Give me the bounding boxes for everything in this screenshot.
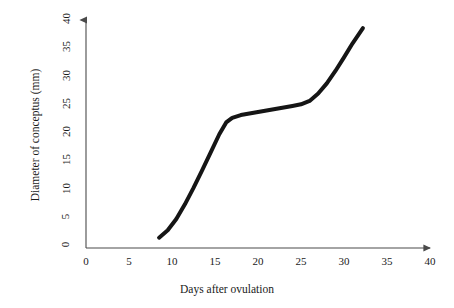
x-tick-label: 5 xyxy=(126,256,132,267)
y-axis-title-text: Diameter of conceptus (mm) xyxy=(29,69,41,202)
growth-curve xyxy=(159,28,363,238)
x-tick-label: 20 xyxy=(253,256,264,267)
y-tick-label: 5 xyxy=(58,211,74,222)
x-tick-label: 15 xyxy=(210,256,221,267)
x-tick-label: 10 xyxy=(167,256,178,267)
x-tick-label: 40 xyxy=(425,256,436,267)
y-tick-label: 25 xyxy=(58,98,74,109)
y-tick-label: 35 xyxy=(58,41,74,52)
x-tick-label: 25 xyxy=(296,256,307,267)
x-tick-label: 30 xyxy=(339,256,350,267)
x-tick-label: 0 xyxy=(83,256,89,267)
y-tick-label: 40 xyxy=(58,13,74,24)
y-tick-label: 0 xyxy=(58,239,74,250)
y-tick-label: 15 xyxy=(58,154,74,165)
growth-chart: 0510152025303540 0510152025303540 Days a… xyxy=(0,0,454,308)
y-axis-title: Diameter of conceptus (mm) xyxy=(24,50,46,220)
y-tick-label: 20 xyxy=(58,126,74,137)
y-tick-label: 30 xyxy=(58,70,74,81)
x-axis-title: Days after ovulation xyxy=(0,283,454,295)
x-tick-label: 35 xyxy=(382,256,393,267)
y-tick-label: 10 xyxy=(58,183,74,194)
